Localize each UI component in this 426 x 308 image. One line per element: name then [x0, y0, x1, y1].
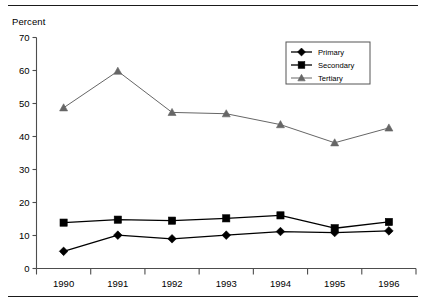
line-chart-plot: 010203040506070 199019911992199319941995…: [0, 0, 426, 308]
y-tick-label: 70: [19, 32, 30, 43]
x-tick-label: 1992: [161, 278, 182, 289]
x-tick-label: 1990: [53, 278, 74, 289]
x-tick-label: 1996: [378, 278, 399, 289]
data-point-marker: [277, 212, 284, 219]
y-tick-label: 40: [19, 131, 30, 142]
legend-label: Primary: [318, 48, 344, 57]
y-tick-label: 50: [19, 98, 30, 109]
data-point-marker: [168, 108, 176, 115]
data-point-marker: [168, 217, 175, 224]
x-tick-label: 1995: [324, 278, 345, 289]
x-axis: 1990199119921993199419951996: [37, 269, 417, 289]
data-point-marker: [114, 67, 122, 74]
chart-figure: Percent 010203040506070 1990199119921993…: [0, 0, 426, 308]
data-point-marker: [60, 104, 68, 111]
y-tick-label: 60: [19, 65, 30, 76]
chart-legend: PrimarySecondaryTertiary: [286, 42, 370, 84]
x-tick-label: 1991: [107, 278, 128, 289]
y-axis: 010203040506070: [19, 32, 37, 274]
data-series-group: [59, 67, 393, 255]
data-point-marker: [223, 215, 230, 222]
legend-label: Tertiary: [318, 74, 343, 83]
legend-label: Secondary: [318, 61, 355, 70]
y-tick-label: 30: [19, 164, 30, 175]
data-point-marker: [114, 216, 121, 223]
legend-item-secondary[interactable]: Secondary: [291, 61, 355, 70]
y-tick-label: 20: [19, 197, 30, 208]
data-point-marker: [385, 227, 394, 236]
x-tick-label: 1993: [216, 278, 237, 289]
y-tick-label: 10: [19, 230, 30, 241]
data-point-marker: [59, 247, 68, 256]
data-point-marker: [168, 235, 177, 244]
series-secondary: [60, 212, 392, 232]
data-point-marker: [114, 231, 123, 240]
data-point-marker: [331, 225, 338, 232]
data-point-marker: [276, 227, 285, 236]
data-point-marker: [298, 62, 305, 69]
y-tick-label: 0: [24, 263, 29, 274]
data-point-marker: [222, 231, 231, 240]
series-primary: [59, 227, 393, 256]
x-tick-label: 1994: [270, 278, 291, 289]
data-point-marker: [385, 218, 392, 225]
data-point-marker: [60, 219, 67, 226]
data-point-marker: [385, 124, 393, 131]
